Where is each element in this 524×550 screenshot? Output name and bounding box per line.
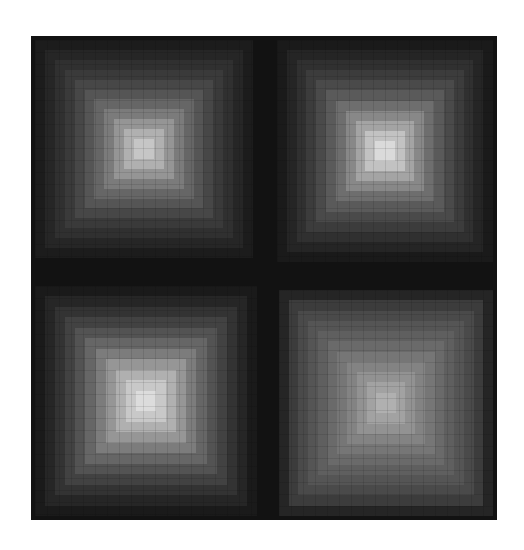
panel-top-right [277,40,493,262]
square-ring [136,391,156,412]
panel-top-left [35,40,253,258]
square-ring [376,393,395,414]
square-ring [375,141,395,161]
artwork-frame [31,36,497,520]
square-ring [134,139,154,159]
panel-bottom-left [35,286,257,516]
panel-bottom-right [279,290,493,516]
